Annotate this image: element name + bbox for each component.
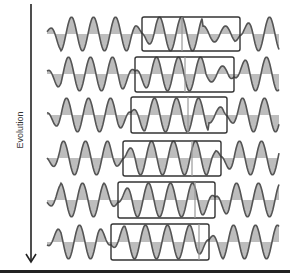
wave-row	[47, 17, 279, 51]
wave-row	[47, 97, 279, 133]
wave-rows	[47, 17, 279, 260]
wave-row	[47, 57, 279, 92]
evolution-arrow	[26, 4, 36, 262]
wave-row	[47, 182, 279, 218]
evolution-diagram	[0, 0, 290, 273]
wave-row	[47, 141, 279, 176]
evolution-axis-label: Evolution	[15, 111, 25, 148]
wave-row	[47, 224, 279, 260]
